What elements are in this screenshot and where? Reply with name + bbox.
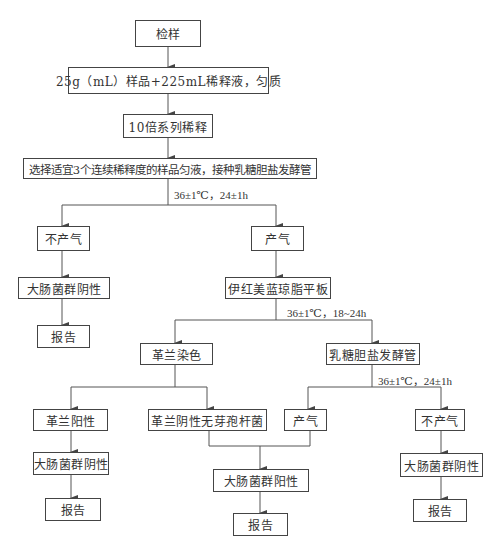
report-box-2: 报告 — [45, 498, 101, 521]
gram-stain-box: 革兰染色 — [140, 343, 213, 365]
emb-plate-box: 伊红美蓝琼脂平板 — [225, 277, 331, 299]
inoculate-box: 选择适宜3个连续稀释度的样品匀液，接种乳糖胆盐发酵管 — [23, 158, 317, 179]
gas-box-1: 产气 — [251, 226, 304, 251]
gram-negative-bacilli-box: 革兰阴性无芽孢杆菌 — [148, 409, 267, 431]
negative-box-3: 大肠菌群阴性 — [400, 453, 483, 477]
incubation-label-3: 36±1℃，24±1h — [378, 372, 452, 388]
lactose-tube-box: 乳糖胆盐发酵管 — [326, 343, 420, 365]
report-box-4: 报告 — [413, 499, 467, 522]
no-gas-box-2: 不产气 — [415, 409, 465, 431]
gas-box-2: 产气 — [284, 409, 327, 431]
report-box-3: 报告 — [233, 513, 288, 536]
start-box: 检样 — [135, 20, 201, 47]
report-box-1: 报告 — [37, 325, 90, 348]
negative-box-2: 大肠菌群阴性 — [33, 452, 109, 475]
homogenize-box: 25g（mL）样品+225mL稀释液，匀质 — [68, 67, 269, 94]
negative-box-1: 大肠菌群阴性 — [18, 277, 110, 299]
incubation-label-2: 36±1℃，18~24h — [287, 304, 366, 320]
positive-box: 大肠菌群阳性 — [213, 469, 309, 492]
gram-positive-box: 革兰阳性 — [33, 409, 108, 431]
incubation-label-1: 36±1℃，24±1h — [174, 186, 248, 202]
no-gas-box-1: 不产气 — [37, 226, 90, 251]
dilution-box: 10倍系列稀释 — [123, 114, 213, 138]
